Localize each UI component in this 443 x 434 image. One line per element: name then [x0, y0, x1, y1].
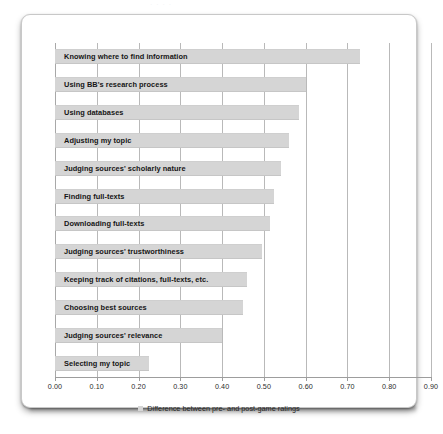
x-axis-line	[55, 377, 432, 378]
x-axis-tick-label: 0.90	[411, 382, 443, 391]
x-axis-tick-label: 0.00	[35, 382, 75, 391]
bar-row[interactable]: Downloading full-texts	[55, 210, 431, 238]
bar-label: Using BB's research process	[64, 77, 168, 92]
bar-label: Finding full-texts	[64, 189, 124, 204]
gridline-0.90	[431, 43, 432, 377]
bar-row[interactable]: Using databases	[55, 99, 431, 127]
x-axis-tick-mark	[139, 377, 140, 381]
bar-row[interactable]: Adjusting my topic	[55, 127, 431, 155]
bar-row[interactable]: Judging sources' scholarly nature	[55, 154, 431, 182]
x-axis-tick-mark	[431, 377, 432, 381]
x-axis-tick-mark	[222, 377, 223, 381]
x-axis-tick-label: 0.20	[119, 382, 159, 391]
bar-label: Using databases	[64, 105, 124, 120]
bar-label: Keeping track of citations, full-texts, …	[64, 272, 208, 287]
bar-row[interactable]: Finding full-texts	[55, 182, 431, 210]
bar-row[interactable]: Knowing where to find information	[55, 43, 431, 71]
bar-label: Selecting my topic	[64, 356, 130, 371]
bar-row[interactable]: Judging sources' trustworthiness	[55, 238, 431, 266]
x-axis-tick-label: 0.60	[286, 382, 326, 391]
bar-row[interactable]: Selecting my topic	[55, 349, 431, 377]
plot-area: Knowing where to find informationUsing B…	[55, 43, 431, 377]
legend-swatch-icon	[138, 406, 143, 411]
x-axis-tick-label: 0.10	[77, 382, 117, 391]
x-axis-tick-mark	[389, 377, 390, 381]
bar-label: Judging sources' relevance	[64, 328, 162, 343]
page-bleed-text: · · · ·	[150, 1, 350, 9]
bar-label: Adjusting my topic	[64, 133, 131, 148]
bar-row[interactable]: Judging sources' relevance	[55, 321, 431, 349]
x-axis-tick-mark	[306, 377, 307, 381]
x-axis-tick-mark	[180, 377, 181, 381]
x-axis-tick-label: 0.40	[202, 382, 242, 391]
x-axis-tick-mark	[55, 377, 56, 381]
chart-legend: Difference between pre- and post-game ra…	[22, 404, 416, 413]
x-axis-tick-mark	[97, 377, 98, 381]
x-axis-tick-label: 0.80	[369, 382, 409, 391]
bar-label: Downloading full-texts	[64, 216, 144, 231]
bar-row[interactable]: Choosing best sources	[55, 294, 431, 322]
x-axis-tick-label: 0.50	[244, 382, 284, 391]
legend-label: Difference between pre- and post-game ra…	[147, 404, 299, 413]
bar-label: Judging sources' scholarly nature	[64, 161, 186, 176]
x-axis-tick-label: 0.30	[160, 382, 200, 391]
bar-row[interactable]: Keeping track of citations, full-texts, …	[55, 266, 431, 294]
x-axis-tick-label: 0.70	[327, 382, 367, 391]
chart-card: Knowing where to find informationUsing B…	[21, 14, 417, 408]
x-axis-tick-mark	[347, 377, 348, 381]
x-axis-tick-mark	[264, 377, 265, 381]
bar-label: Judging sources' trustworthiness	[64, 244, 184, 259]
bar-row[interactable]: Using BB's research process	[55, 71, 431, 99]
bar-label: Knowing where to find information	[64, 49, 188, 64]
bar-label: Choosing best sources	[64, 300, 147, 315]
